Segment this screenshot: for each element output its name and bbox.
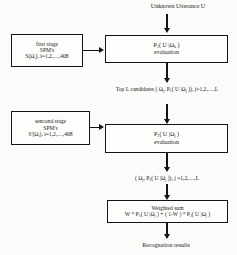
- second-eval-line-2: evaluation: [154, 139, 179, 146]
- connector-first-eval-to-candidates: [166, 63, 167, 79]
- first-eval-line-2: evaluation: [154, 49, 179, 56]
- arrowhead-first-stage-to-first-eval: [99, 47, 104, 53]
- node-first-evaluation[interactable]: P1( U |Ωk ) evaluation: [105, 35, 228, 63]
- node-weighted-sum[interactable]: Weighted sum W * P1( U |Ωj ) + ( 1-W ) *…: [107, 200, 228, 223]
- top-candidates-annotation: Top L candidates ( Ωj, P1( U |Ωj )), j=1…: [108, 86, 226, 93]
- top-candidates-line-1: Top L candidates: [116, 86, 154, 92]
- second-pass-output-annotation: ( Ωj, P2( U |Ωj )), j =1,2,…,L: [108, 175, 226, 182]
- node-second-stage-spm[interactable]: sencond stage SPM's S'(Ωi), i=1,2,…,408: [11, 111, 90, 145]
- node-first-stage-spm[interactable]: first stage SPM's S(Ωi), i=1,2,…,408: [11, 34, 83, 67]
- unknown-utterance-label: Unknown Utterance U: [128, 3, 228, 10]
- arrowhead-second-eval-to-output: [164, 167, 170, 172]
- arrowhead-input-to-first-eval: [164, 28, 170, 33]
- second-eval-line-1: P2( U |Ωj ): [154, 131, 179, 138]
- top-candidates-line-2: ( Ωj, P1( U |Ωj )), j=1,2,…,L: [155, 86, 218, 92]
- recognition-results-label: Recognation results: [116, 242, 216, 249]
- connector-candidates-to-second-eval: [166, 104, 167, 120]
- connector-input-to-first-eval: [166, 14, 167, 29]
- second-stage-line-3: S'(Ωi), i=1,2,…,408: [28, 131, 72, 138]
- arrowhead-second-stage-to-second-eval: [99, 124, 104, 130]
- connector-second-eval-to-output: [166, 153, 167, 168]
- flowchart-diagram: Unknown Utterance U first stage SPM's S(…: [0, 0, 237, 255]
- arrowhead-first-eval-to-candidates: [164, 78, 170, 83]
- first-eval-line-1: P1( U |Ωk ): [154, 42, 180, 49]
- arrowhead-weighted-sum-to-results: [164, 234, 170, 239]
- node-second-evaluation[interactable]: P2( U |Ωj ) evaluation: [105, 124, 228, 153]
- first-stage-line-3: S(Ωi), i=1,2,…,408: [25, 53, 68, 60]
- connector-first-stage-to-first-eval: [83, 50, 100, 51]
- weighted-sum-line-2: W * P1( U |Ωj ) + ( 1-W ) * P2( U |Ωj ): [125, 211, 210, 218]
